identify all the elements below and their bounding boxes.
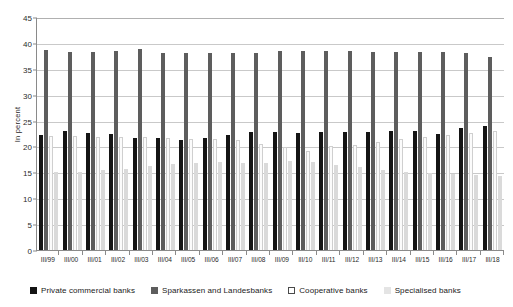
x-axis-labels: III/99III/00III/01III/02III/03III/04III/… (36, 256, 504, 263)
bar (143, 137, 147, 250)
bar (498, 176, 502, 250)
bar (301, 51, 305, 250)
bar (296, 133, 300, 250)
y-axis-tick-label: 30 (23, 91, 32, 100)
y-axis-tick-label: 0 (28, 247, 32, 256)
bar (213, 139, 217, 250)
bar (493, 131, 497, 250)
legend-swatch-icon (288, 287, 295, 294)
x-axis-tick-label: III/08 (247, 256, 270, 263)
x-axis-tick-label: III/12 (340, 256, 363, 263)
bar (138, 49, 142, 250)
bar (161, 53, 165, 250)
bar (278, 51, 282, 250)
y-axis-tick-label: 15 (23, 169, 32, 178)
bar-group (294, 18, 317, 250)
x-axis-tick-label: III/07 (223, 256, 246, 263)
bar (109, 134, 113, 250)
bar (96, 137, 100, 250)
bar (399, 139, 403, 250)
bar (306, 151, 310, 250)
legend-swatch-icon (30, 287, 37, 294)
bar-group (224, 18, 247, 250)
bar-group (364, 18, 387, 250)
legend-swatch-icon (384, 287, 391, 294)
bar (459, 128, 463, 250)
bar-group (270, 18, 293, 250)
bar (319, 132, 323, 250)
bar (179, 140, 183, 250)
bar (241, 163, 245, 250)
y-axis-tick-label: 45 (23, 14, 32, 23)
bar (283, 147, 287, 250)
bar-group (84, 18, 107, 250)
bar (334, 165, 338, 250)
bar (474, 175, 478, 250)
x-axis-tick-label: III/01 (83, 256, 106, 263)
bar (451, 174, 455, 250)
bar-group (317, 18, 340, 250)
bar (488, 57, 492, 250)
bar (218, 162, 222, 250)
x-axis-tick-label: III/16 (434, 256, 457, 263)
bar (226, 135, 230, 250)
y-axis-tick-label: 40 (23, 39, 32, 48)
bar (423, 137, 427, 250)
bar-group (457, 18, 480, 250)
bar (73, 136, 77, 250)
legend-item[interactable]: Private commercial banks (30, 286, 135, 295)
legend-item[interactable]: Specialised banks (384, 286, 461, 295)
x-axis-tick-label: III/03 (130, 256, 153, 263)
legend-label: Sparkassen and Landesbanks (162, 286, 272, 295)
legend-label: Private commercial banks (41, 286, 135, 295)
bar (249, 132, 253, 250)
bar (404, 172, 408, 250)
x-axis-tick-label: III/14 (387, 256, 410, 263)
x-axis-tick-label: III/00 (59, 256, 82, 263)
bar (413, 131, 417, 250)
bar (343, 132, 347, 250)
x-axis-tick-label: III/05 (176, 256, 199, 263)
bar (78, 172, 82, 250)
bar (124, 169, 128, 250)
x-axis-tick-label: III/02 (106, 256, 129, 263)
bar (259, 144, 263, 250)
bar (86, 133, 90, 250)
bar-group (107, 18, 130, 250)
bar (436, 134, 440, 250)
legend-item[interactable]: Sparkassen and Landesbanks (151, 286, 272, 295)
bar (119, 137, 123, 250)
bar (469, 133, 473, 250)
bar (329, 146, 333, 250)
bar (389, 131, 393, 250)
bar (236, 140, 240, 250)
bar-group (130, 18, 153, 250)
bar (483, 126, 487, 250)
x-axis-tick-label: III/99 (36, 256, 59, 263)
plot-area: 051015202530354045 (36, 18, 504, 251)
bar (194, 163, 198, 251)
bar (254, 53, 258, 250)
bar-chart: In percent 051015202530354045 III/99III/… (0, 0, 513, 307)
x-axis-tick-label: III/06 (200, 256, 223, 263)
bar (203, 138, 207, 250)
bar (464, 53, 468, 250)
y-axis-title: In percent (13, 90, 22, 160)
bar (189, 139, 193, 250)
bar (114, 51, 118, 250)
bar (54, 172, 58, 250)
bar (376, 142, 380, 250)
bar-group (340, 18, 363, 250)
bar-group (387, 18, 410, 250)
bar-group (177, 18, 200, 250)
x-axis-tick-label: III/11 (317, 256, 340, 263)
bar (49, 136, 53, 250)
x-axis-tick-label: III/13 (364, 256, 387, 263)
bar (324, 51, 328, 250)
bar (348, 51, 352, 250)
legend-item[interactable]: Cooperative banks (288, 286, 367, 295)
bar (231, 53, 235, 250)
bar (68, 52, 72, 250)
bar-group (434, 18, 457, 250)
bar (133, 138, 137, 250)
